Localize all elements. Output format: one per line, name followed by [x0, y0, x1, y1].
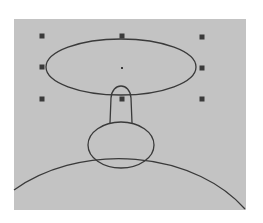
selection-handle-bottom-left[interactable]: [40, 97, 45, 102]
selection-handle-top-right[interactable]: [200, 35, 205, 40]
selection-handle-bottom-center[interactable]: [120, 97, 125, 102]
selection-handle-middle-right[interactable]: [200, 66, 205, 71]
drawing-canvas[interactable]: [0, 0, 263, 223]
selection-handle-top-center[interactable]: [120, 34, 125, 39]
selection-handle-top-left[interactable]: [40, 34, 45, 39]
selection-handle-bottom-right[interactable]: [200, 97, 205, 102]
selection-handle-center[interactable]: [121, 67, 123, 69]
selection-handle-middle-left[interactable]: [40, 65, 45, 70]
